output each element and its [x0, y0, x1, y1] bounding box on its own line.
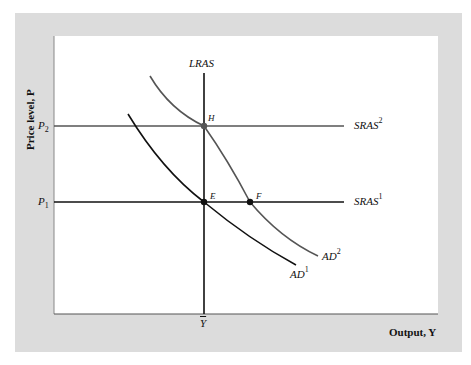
as-ad-diagram [0, 0, 471, 365]
ybar-tick-label: Y [200, 317, 206, 329]
ad1-label: AD1 [290, 268, 309, 280]
sras1-label: SRAS1 [354, 195, 382, 207]
point-h-marker [201, 123, 207, 129]
lras-label: LRAS [189, 57, 214, 69]
p2-tick-label: P2 [38, 119, 49, 134]
point-f-marker [247, 199, 253, 205]
point-f-label: F [256, 191, 262, 201]
ad2-curve [150, 76, 318, 256]
point-h-label: H [208, 113, 215, 123]
sras2-label: SRAS2 [354, 119, 382, 131]
point-e-label: E [210, 191, 216, 201]
y-axis-label: Price level, P [24, 89, 36, 150]
ad2-label: AD2 [322, 250, 341, 262]
point-e-marker [201, 199, 207, 205]
x-axis-label: Output, Y [389, 326, 436, 338]
p1-tick-label: P1 [38, 195, 49, 210]
